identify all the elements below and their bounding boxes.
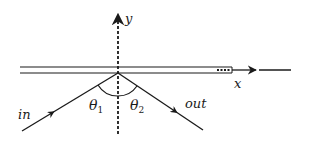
theta2-label: θ2	[130, 97, 144, 115]
waveguide	[20, 67, 232, 73]
x-axis-label: x	[234, 76, 242, 91]
theta2-arc	[118, 86, 137, 96]
outgoing-ray-label: out	[185, 96, 207, 111]
y-axis-label: y	[124, 11, 133, 26]
incident-ray: in	[18, 73, 118, 131]
incident-ray-line	[22, 73, 118, 131]
diagram-canvas: x y in out θ1 θ2	[0, 0, 320, 144]
theta1-subscript: 1	[97, 105, 103, 115]
theta2-subscript: 2	[138, 105, 144, 115]
incident-ray-label: in	[18, 107, 31, 122]
theta1-arc	[98, 85, 118, 96]
theta1-label: θ1	[89, 97, 103, 115]
x-axis: x	[232, 70, 291, 91]
